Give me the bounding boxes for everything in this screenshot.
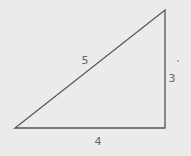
right-triangle bbox=[15, 10, 165, 128]
triangle-diagram bbox=[0, 0, 191, 156]
dot-mark bbox=[177, 60, 179, 62]
vertical-side-label: 3 bbox=[169, 73, 176, 84]
horizontal-side-label: 4 bbox=[95, 136, 102, 147]
hypotenuse-label: 5 bbox=[82, 55, 89, 66]
